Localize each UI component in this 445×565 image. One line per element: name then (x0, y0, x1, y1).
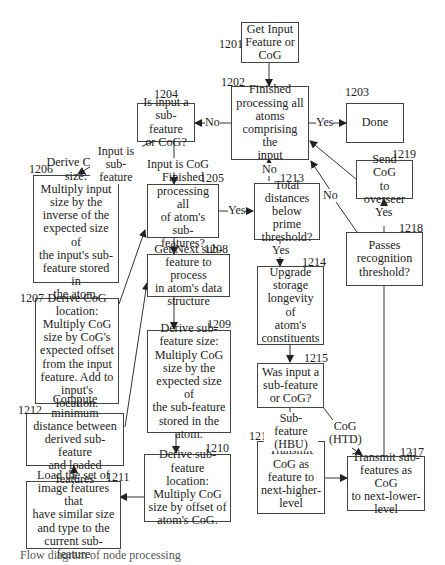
node-1208-get-next-subfeature[interactable]: Get Next sub- feature to process in atom… (147, 254, 230, 297)
ref-1208: 1208 (204, 243, 228, 255)
figure-caption: Flow diagram of node processing (20, 548, 181, 563)
node-1213-total-distances[interactable]: Total distances below prime threshold? (254, 183, 320, 240)
node-1201-get-input[interactable]: Get Input Feature or CoG (241, 22, 299, 63)
ref-1215: 1215 (304, 352, 328, 364)
ref-1203: 1203 (345, 86, 369, 98)
ref-1206: 1206 (29, 163, 53, 175)
edge-label-1213-1202-no: No (262, 163, 277, 176)
node-1210-derive-subfeature-location[interactable]: Derive sub- feature location: Multiply C… (144, 454, 231, 522)
ref-1213: 1213 (280, 172, 304, 184)
node-1219-send-to-overseer[interactable]: Send CoG to overseer (356, 160, 413, 199)
node-1207-derive-cog-location[interactable]: Derive CoG location: Multiply CoG size b… (35, 298, 119, 404)
ref-1218: 1218 (399, 222, 423, 234)
ref-1205: 1205 (200, 172, 224, 184)
node-1216-transmit-higher[interactable]: Transmit CoG as feature to next-higher- … (257, 441, 325, 514)
node-1206-derive-cog-size[interactable]: Derive CoG size: Multiply input size by … (33, 175, 119, 283)
node-1204-input-type[interactable]: Is input a sub-feature or CoG? (137, 103, 195, 142)
node-1209-derive-subfeature-size[interactable]: Derive sub- feature size: Multiply CoG s… (147, 330, 231, 433)
node-1211-load-image-features[interactable]: Load the set of image features that have… (26, 481, 121, 549)
node-1212-compute-min-distance[interactable]: Compute minimum distance between derived… (26, 413, 124, 466)
edge-label-1215-1216: Sub-feature (HBU) (264, 412, 318, 451)
node-1218-recognition-threshold[interactable]: Passes recognition threshold? (346, 232, 423, 286)
ref-1204: 1204 (154, 88, 178, 100)
edge-label-1202-1203-yes: Yes (316, 116, 333, 129)
ref-1219: 1219 (392, 148, 416, 160)
edge-label-1213-1214-yes: Yes (272, 244, 289, 257)
edge-label-1204-1206: Input is sub-feature (90, 145, 142, 184)
node-1203-done[interactable]: Done (346, 103, 404, 143)
edge-label-1205-1213-yes: Yes (228, 204, 245, 217)
edge-label-1204-1205: Input is CoG (147, 158, 209, 171)
ref-1217: 1217 (400, 446, 424, 458)
node-1202-finished-atoms[interactable]: Finished processing all atoms comprising… (231, 86, 309, 160)
node-1205-finished-subfeatures[interactable]: Finished processing all of atom's sub- f… (147, 184, 219, 238)
ref-1207: 1207 (20, 292, 44, 304)
node-1215-was-input-type[interactable]: Was input a sub-feature or CoG? (257, 363, 324, 408)
ref-1210: 1210 (205, 442, 229, 454)
node-1214-upgrade-storage[interactable]: Upgrade storage longevity of atom's cons… (257, 266, 324, 345)
node-1217-transmit-lower[interactable]: Transmit sub- features as CoG to next-lo… (347, 456, 425, 511)
ref-1202: 1202 (221, 76, 245, 88)
ref-1201: 1201 (219, 38, 243, 50)
edge-label-1202-1204-no: No (205, 116, 220, 129)
ref-1214: 1214 (302, 256, 326, 268)
edge-label-1218-1219-yes: Yes (375, 206, 392, 219)
ref-1209: 1209 (207, 318, 231, 330)
ref-1212: 1212 (18, 404, 42, 416)
edge-label-1215-1217: CoG (HTD) (329, 420, 361, 446)
edge-label-1218-1202-no: No (323, 189, 338, 202)
